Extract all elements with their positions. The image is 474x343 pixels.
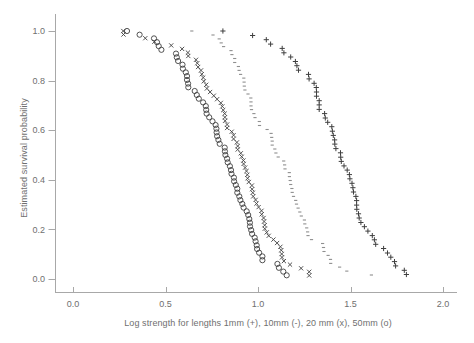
circle-marker	[159, 47, 164, 52]
plus-marker	[317, 102, 322, 107]
plus-marker	[350, 185, 355, 190]
x-marker	[262, 219, 266, 223]
plus-marker	[332, 142, 337, 147]
x-marker	[242, 162, 246, 166]
plus-marker	[358, 220, 363, 225]
plus-marker	[323, 115, 328, 120]
x-marker	[251, 194, 255, 198]
plus-marker	[220, 28, 225, 33]
x-marker	[288, 263, 292, 267]
circle-marker	[201, 100, 206, 105]
x-marker	[199, 68, 203, 72]
x-marker	[236, 147, 240, 151]
plus-marker	[356, 211, 361, 216]
y-tick-label: 0.0	[32, 274, 45, 284]
y-tick-label: 0.4	[32, 175, 45, 185]
circle-marker	[124, 28, 129, 33]
x-tick-label: 2.0	[437, 299, 450, 309]
y-tick-label: 0.6	[32, 125, 45, 135]
x-marker	[223, 119, 227, 123]
x-marker	[307, 273, 311, 277]
circle-marker	[186, 85, 191, 90]
x-marker	[208, 90, 212, 94]
plus-marker	[307, 76, 312, 81]
x-marker	[239, 151, 243, 155]
plus-marker	[353, 194, 358, 199]
x-marker	[307, 270, 311, 274]
circle-marker	[173, 51, 178, 56]
y-tick-label: 1.0	[32, 26, 45, 36]
x-tick-label: 1.0	[252, 299, 265, 309]
plus-marker	[354, 198, 359, 203]
x-marker	[225, 126, 229, 130]
plus-marker	[330, 129, 335, 134]
x-marker	[180, 47, 184, 51]
x-marker	[186, 54, 190, 58]
circle-marker	[284, 273, 289, 278]
x-axis-title-text: Log strength for lengths 1mm (+), 10mm (…	[124, 318, 392, 328]
plus-marker	[345, 168, 350, 173]
circle-marker	[260, 258, 265, 263]
plus-marker	[354, 207, 359, 212]
plus-marker	[347, 176, 352, 181]
plus-marker	[392, 259, 397, 264]
plus-marker	[333, 146, 338, 151]
y-axis-title-text: Estimated survival probability	[19, 98, 29, 218]
x-marker	[202, 79, 206, 83]
plus-marker	[341, 163, 346, 168]
circle-marker	[204, 111, 209, 116]
plus-marker	[314, 94, 319, 99]
plus-marker	[268, 42, 273, 47]
circle-marker	[229, 171, 234, 176]
plus-marker	[317, 107, 322, 112]
plus-marker	[385, 250, 390, 255]
x-marker	[254, 198, 258, 202]
plus-marker	[338, 155, 343, 160]
plus-marker	[322, 111, 327, 116]
plus-marker	[264, 37, 269, 42]
x-marker	[204, 83, 208, 87]
plus-marker	[393, 263, 398, 268]
plus-marker	[365, 229, 370, 234]
plus-marker	[362, 224, 367, 229]
x-tick-label: 0.5	[159, 299, 172, 309]
plus-marker	[381, 246, 386, 251]
plus-marker	[325, 120, 330, 125]
x-marker	[215, 97, 219, 101]
circle-marker	[252, 235, 257, 240]
plus-marker	[373, 242, 378, 247]
x-marker	[235, 140, 239, 144]
x-marker	[299, 266, 303, 270]
survival-plot-figure: 0.00.51.01.52.00.00.20.40.60.81.0 Estima…	[0, 0, 474, 343]
plus-marker	[306, 72, 311, 77]
y-tick-label: 0.2	[32, 225, 45, 235]
circle-marker	[137, 32, 142, 37]
plus-marker	[339, 159, 344, 164]
plus-marker	[349, 181, 354, 186]
circle-marker	[213, 122, 218, 127]
plus-marker	[288, 54, 293, 59]
plus-marker	[351, 189, 356, 194]
x-axis-title: Log strength for lengths 1mm (+), 10mm (…	[42, 318, 474, 328]
y-tick-label: 0.8	[32, 76, 45, 86]
plus-marker	[250, 33, 255, 38]
x-marker	[169, 43, 173, 47]
plus-marker	[331, 133, 336, 138]
plus-marker	[357, 215, 362, 220]
plot-canvas: 0.00.51.01.52.00.00.20.40.60.81.0	[0, 0, 474, 343]
plus-marker	[329, 124, 334, 129]
x-marker	[278, 245, 282, 249]
x-tick-label: 1.5	[344, 299, 357, 309]
x-tick-label: 0.0	[67, 299, 80, 309]
plus-marker	[388, 255, 393, 260]
x-marker	[143, 36, 147, 40]
plus-marker	[296, 68, 301, 73]
x-marker	[246, 176, 250, 180]
